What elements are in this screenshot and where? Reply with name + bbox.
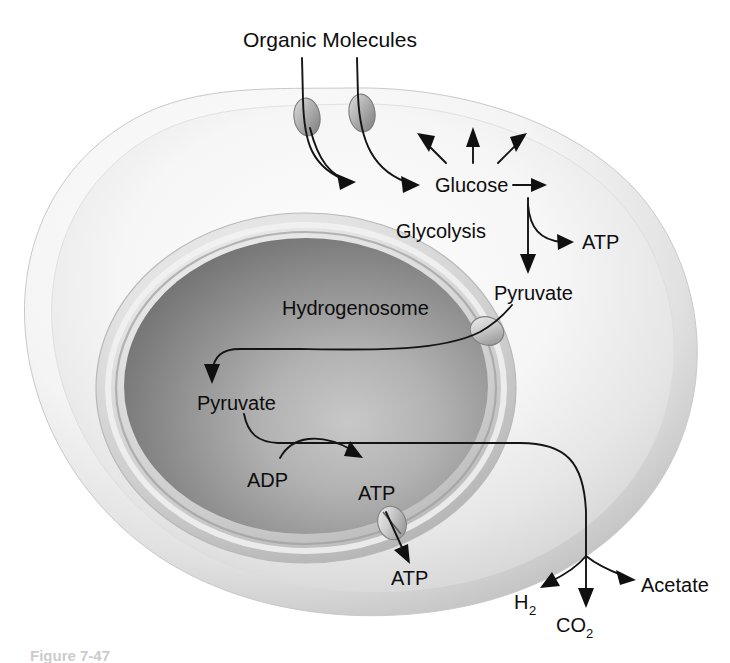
label-hydrogen-group: H 2 xyxy=(514,591,536,618)
hydrogenosome-matrix xyxy=(124,238,488,534)
label-pyruvate-organelle: Pyruvate xyxy=(197,392,276,414)
hydrogenosome-diagram: Organic Molecules Glucose Glycolysis ATP… xyxy=(0,0,730,663)
label-hydrogen-subscript: 2 xyxy=(529,603,536,618)
figure-caption: Figure 7-47 xyxy=(30,647,110,663)
label-pyruvate-cytosol: Pyruvate xyxy=(494,282,573,304)
figure-root: Organic Molecules Glucose Glycolysis ATP… xyxy=(0,0,730,663)
label-glucose: Glucose xyxy=(435,174,508,196)
label-atp-organelle: ATP xyxy=(358,482,395,504)
label-hydrogenosome: Hydrogenosome xyxy=(282,297,429,319)
label-carbon-dioxide-group: CO 2 xyxy=(556,614,593,641)
label-carbon-dioxide: CO xyxy=(556,614,586,636)
label-acetate: Acetate xyxy=(641,574,709,596)
export-acetate-arrowhead xyxy=(616,570,636,585)
label-hydrogen: H xyxy=(514,591,528,613)
label-glycolysis: Glycolysis xyxy=(396,220,486,242)
label-adp: ADP xyxy=(247,469,288,491)
label-carbon-dioxide-subscript: 2 xyxy=(586,626,593,641)
label-atp-exported: ATP xyxy=(391,567,428,589)
label-organic-molecules: Organic Molecules xyxy=(243,28,417,51)
label-atp-cytosol: ATP xyxy=(582,231,619,253)
export-co2-arrowhead xyxy=(578,588,594,608)
hydrogenosome-organelle xyxy=(96,213,516,563)
